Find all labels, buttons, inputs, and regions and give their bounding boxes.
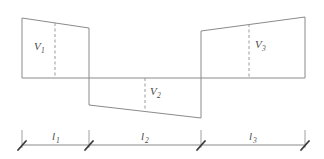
- v2-label-subscript: 2: [157, 91, 161, 100]
- dimension-tick: [85, 130, 93, 150]
- l3-label: l: [249, 130, 252, 142]
- segment-v3: V 3: [201, 17, 305, 78]
- l2-label-subscript: 2: [145, 136, 149, 145]
- l3-label-subscript: 3: [252, 136, 257, 145]
- l2-label: l: [141, 130, 144, 142]
- v3-trapezoid-outline: [201, 17, 305, 78]
- segment-v1: V 1: [22, 18, 89, 78]
- segment-v2: V 2: [89, 78, 201, 118]
- dimension-line-group: l 1 l 2 l 3: [18, 130, 309, 150]
- l1-label-subscript: 1: [56, 136, 60, 145]
- v3-label-subscript: 3: [261, 44, 266, 53]
- dimension-tick: [197, 130, 205, 150]
- shear-force-diagram: V 1 V 2 V 3: [0, 0, 324, 159]
- l1-label: l: [52, 130, 55, 142]
- v1-label-subscript: 1: [41, 46, 45, 55]
- dimension-tick: [301, 130, 309, 150]
- dimension-tick: [18, 130, 26, 150]
